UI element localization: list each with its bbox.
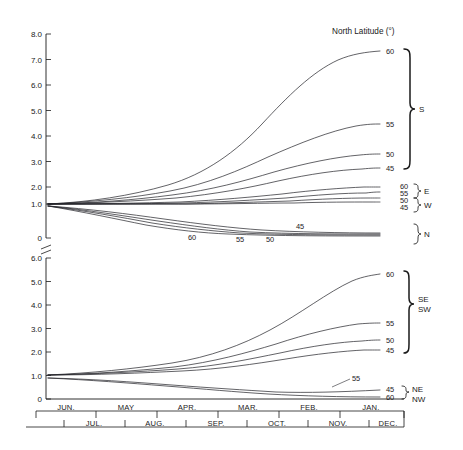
upper-panel-yaxis: 8.0 7.0 6.0 5.0 4.0 3.0 2.0 1.0 0 [31, 30, 51, 243]
month-jul: JUL. [86, 419, 102, 428]
lower-legend: 60 55 50 45 SE SW 45 60 NE NW [386, 270, 431, 404]
curve-se-50 [48, 340, 380, 375]
lower-legend-se-55: 55 [386, 319, 394, 328]
month-sep: SEP. [207, 419, 224, 428]
lower-legend-group-nw: NW [412, 395, 426, 404]
curve-se-45 [48, 350, 380, 375]
month-may: MAY [118, 403, 135, 412]
upper-legend: 60 55 50 45 S 60 55 50 45 E W N [386, 47, 432, 244]
curve-se-55 [48, 323, 380, 375]
brace-n [414, 224, 421, 244]
lower-legend-group-se: SE [418, 295, 429, 304]
month-jan: JAN. [362, 403, 379, 412]
lower-legend-se-60: 60 [386, 270, 394, 279]
lower-ytick-5: 5.0 [31, 278, 43, 287]
upper-inline-50: 50 [266, 235, 274, 244]
upper-ytick-5: 5.0 [31, 107, 43, 116]
curve-e-60 [48, 187, 380, 204]
brace-se-sw [404, 271, 414, 353]
lower-ytick-0: 0 [38, 395, 43, 404]
upper-legend-s-55: 55 [386, 120, 394, 129]
brace-e [414, 184, 421, 198]
lower-inline-55: 55 [352, 374, 360, 383]
lower-legend-group-ne: NE [412, 385, 423, 394]
month-jun: JUN. [57, 403, 75, 412]
month-feb: FEB. [300, 403, 318, 412]
lower-legend-group-sw: SW [418, 305, 431, 314]
upper-ytick-2: 2.0 [31, 183, 43, 192]
upper-legend-s-50: 50 [386, 150, 394, 159]
x-axis: JUN. MAY APR. MAR. FEB. JAN. JUL. AUG. S… [26, 399, 404, 428]
lower-ytick-4: 4.0 [31, 301, 43, 310]
brace-ne [402, 386, 409, 399]
upper-ytick-0: 0 [38, 234, 43, 243]
curve-n-45 [48, 206, 380, 233]
lower-inline-labels: 55 [332, 374, 360, 387]
month-nov: NOV. [329, 419, 348, 428]
upper-legend-group-w: W [424, 201, 432, 210]
upper-inline-60: 60 [188, 233, 196, 242]
lower-legend-se-50: 50 [386, 336, 394, 345]
upper-legend-w-45: 45 [400, 203, 408, 212]
leader-line-55 [332, 379, 350, 387]
curve-n-50 [48, 206, 380, 234]
month-oct: OCT. [268, 419, 286, 428]
upper-legend-s-45: 45 [386, 164, 394, 173]
upper-legend-group-e: E [424, 187, 429, 196]
lower-panel-yaxis: 6.0 5.0 4.0 3.0 2.0 1.0 0 [31, 254, 51, 404]
upper-legend-s-60: 60 [386, 47, 394, 56]
month-aug: AUG. [145, 419, 164, 428]
month-dec: DEC. [379, 419, 398, 428]
upper-ytick-4: 4.0 [31, 132, 43, 141]
lower-ytick-3: 3.0 [31, 325, 43, 334]
month-apr: APR. [178, 403, 197, 412]
upper-ytick-6: 6.0 [31, 81, 43, 90]
upper-legend-group-s: S [419, 105, 424, 114]
brace-s [404, 49, 415, 169]
month-mar: MAR. [238, 403, 258, 412]
curve-s-60 [48, 51, 380, 204]
upper-ytick-3: 3.0 [31, 158, 43, 167]
chart-title: North Latitude (°) [332, 27, 395, 36]
lower-ytick-2: 2.0 [31, 348, 43, 357]
lower-legend-se-45: 45 [386, 346, 394, 355]
lower-panel-curves [48, 274, 380, 397]
upper-inline-55: 55 [236, 235, 244, 244]
upper-legend-group-n: N [424, 230, 430, 239]
upper-ytick-1: 1.0 [31, 200, 43, 209]
upper-ytick-7: 7.0 [31, 56, 43, 65]
lower-ytick-1: 1.0 [31, 372, 43, 381]
lower-ytick-6: 6.0 [31, 254, 43, 263]
chart-svg: North Latitude (°) 8.0 7.0 6.0 5.0 4.0 3… [0, 0, 463, 450]
upper-ytick-8: 8.0 [31, 30, 43, 39]
lower-legend-nw-60: 60 [386, 393, 394, 402]
chart-figure: North Latitude (°) 8.0 7.0 6.0 5.0 4.0 3… [0, 0, 463, 450]
brace-w [414, 198, 421, 212]
upper-panel-curves [48, 51, 380, 236]
axis-break-mark [41, 245, 51, 254]
upper-inline-45: 45 [296, 222, 304, 231]
